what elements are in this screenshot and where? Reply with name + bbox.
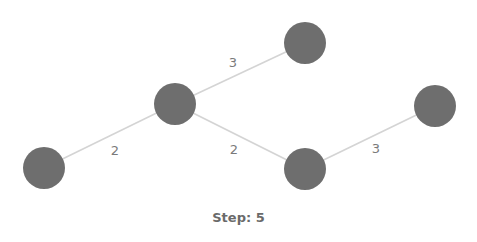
edge-n1-n2 xyxy=(44,104,175,168)
edge-n2-n4 xyxy=(175,104,305,169)
graph-diagram: 2323 xyxy=(0,0,477,242)
graph-node-n1 xyxy=(23,147,65,189)
edge-labels-group: 2323 xyxy=(111,55,380,158)
edge-weight-label: 2 xyxy=(111,143,119,158)
graph-node-n4 xyxy=(284,148,326,190)
edge-n2-n3 xyxy=(175,43,305,104)
graph-node-n3 xyxy=(284,22,326,64)
step-counter: Step: 5 xyxy=(0,210,477,225)
edge-weight-label: 3 xyxy=(372,141,380,156)
edge-weight-label: 2 xyxy=(230,142,238,157)
edge-n4-n5 xyxy=(305,106,435,169)
nodes-group xyxy=(23,22,456,190)
graph-node-n2 xyxy=(154,83,196,125)
graph-node-n5 xyxy=(414,85,456,127)
edge-weight-label: 3 xyxy=(229,55,237,70)
